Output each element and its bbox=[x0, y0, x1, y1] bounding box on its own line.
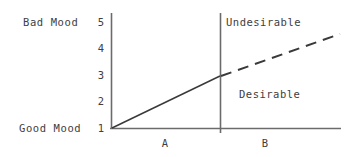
y-tick-2: 2 bbox=[92, 96, 104, 107]
undesirable-region-label: Undesirable bbox=[226, 17, 301, 28]
x-category-a-label: A bbox=[152, 138, 178, 149]
mood-trend-chart: Bad Mood Good Mood 5 4 3 2 1 Undesirable… bbox=[0, 0, 345, 157]
y-axis-bottom-label: Good Mood bbox=[19, 123, 81, 134]
y-axis-top-label: Bad Mood bbox=[23, 17, 78, 28]
x-category-b-label: B bbox=[252, 138, 278, 149]
dashed-projection-line bbox=[221, 34, 340, 76]
y-tick-1: 1 bbox=[92, 123, 104, 134]
y-tick-5: 5 bbox=[92, 17, 104, 28]
desirable-region-label: Desirable bbox=[239, 89, 300, 100]
y-tick-4: 4 bbox=[92, 43, 104, 54]
solid-trend-line bbox=[112, 76, 220, 128]
y-tick-3: 3 bbox=[92, 70, 104, 81]
